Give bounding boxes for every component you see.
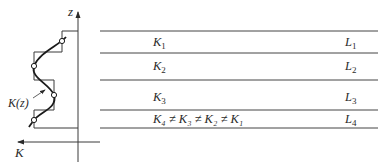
intersection-point-4 <box>31 117 36 122</box>
layer-3-l: L3 <box>345 91 356 108</box>
layer-1-k: K1 <box>153 36 166 53</box>
layer-2-k: K2 <box>153 60 166 77</box>
layer-3-k: K3 <box>153 91 166 108</box>
layer-4-k: K₄ ≠ K₃ ≠ K₂ ≠ K₁ <box>153 113 243 126</box>
intersection-point-2 <box>31 63 36 68</box>
intersection-point-1 <box>59 38 64 43</box>
layer-2-l: L2 <box>345 60 356 77</box>
diagram-canvas <box>0 0 390 165</box>
layer-4-l: L4 <box>345 113 356 130</box>
z-axis-label: z <box>68 5 73 18</box>
kz-curve <box>29 37 66 127</box>
intersection-point-3 <box>51 92 56 97</box>
layered-medium-diagram: z K K(z) K1 L1 K2 L2 K3 L3 K₄ ≠ K₃ ≠ K₂ … <box>0 0 390 165</box>
kz-pointer-arrow <box>33 90 45 98</box>
kz-curve-label: K(z) <box>8 97 29 110</box>
k-axis-label: K <box>15 146 24 159</box>
layer-1-l: L1 <box>345 36 356 53</box>
